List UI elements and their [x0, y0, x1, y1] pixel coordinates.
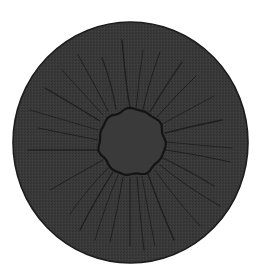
- cracked-disc-illustration: [0, 0, 266, 279]
